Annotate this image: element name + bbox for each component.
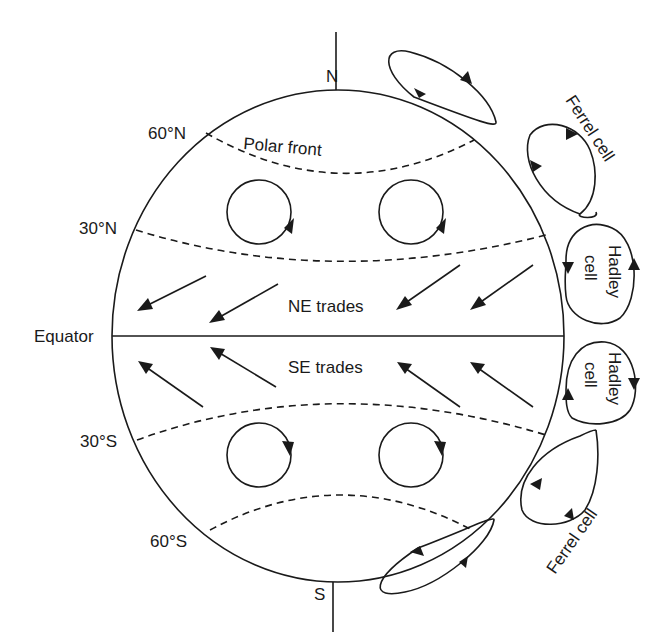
ne-trade-arrow-1 <box>137 276 206 311</box>
eddy-nw <box>227 180 294 244</box>
se-trade-arrow-4 <box>470 362 533 407</box>
lat-30s-label: 30°S <box>80 432 117 451</box>
eddy-sw <box>227 423 294 487</box>
ne-trades-label: NE trades <box>288 297 364 316</box>
polar-cell-north <box>389 51 496 124</box>
lat-30n-line <box>136 230 546 261</box>
hadley-cell-south <box>562 342 640 424</box>
hadley-north-label-2: cell <box>581 255 600 281</box>
south-label: S <box>314 585 325 604</box>
polar-front-line-south <box>210 495 472 530</box>
ne-trade-arrow-4 <box>470 265 533 310</box>
se-trade-arrow-2 <box>210 347 276 387</box>
ne-trade-arrow-3 <box>396 265 460 310</box>
circulation-diagram: N S 60°N 30°N Equator 30°S 60°S Polar fr… <box>0 0 667 640</box>
north-label: N <box>326 67 338 86</box>
lat-30n-label: 30°N <box>79 219 117 238</box>
hadley-north-label-1: Hadley <box>605 245 624 298</box>
lat-60s-label: 60°S <box>150 532 187 551</box>
equator-label: Equator <box>34 327 94 346</box>
eddy-ne <box>379 180 446 244</box>
hadley-cell-north <box>562 225 640 324</box>
hadley-south-label-1: Hadley <box>605 352 624 405</box>
hadley-south-label-2: cell <box>581 362 600 388</box>
lat-30s-line <box>137 404 546 440</box>
lat-60n-label: 60°N <box>148 124 186 143</box>
ne-trade-arrow-2 <box>209 284 278 323</box>
diagram-canvas: N S 60°N 30°N Equator 30°S 60°S Polar fr… <box>0 0 667 640</box>
se-trade-arrow-3 <box>397 362 460 407</box>
se-trades-label: SE trades <box>288 358 363 377</box>
se-trade-arrow-1 <box>138 361 203 407</box>
eddy-se <box>379 423 446 487</box>
